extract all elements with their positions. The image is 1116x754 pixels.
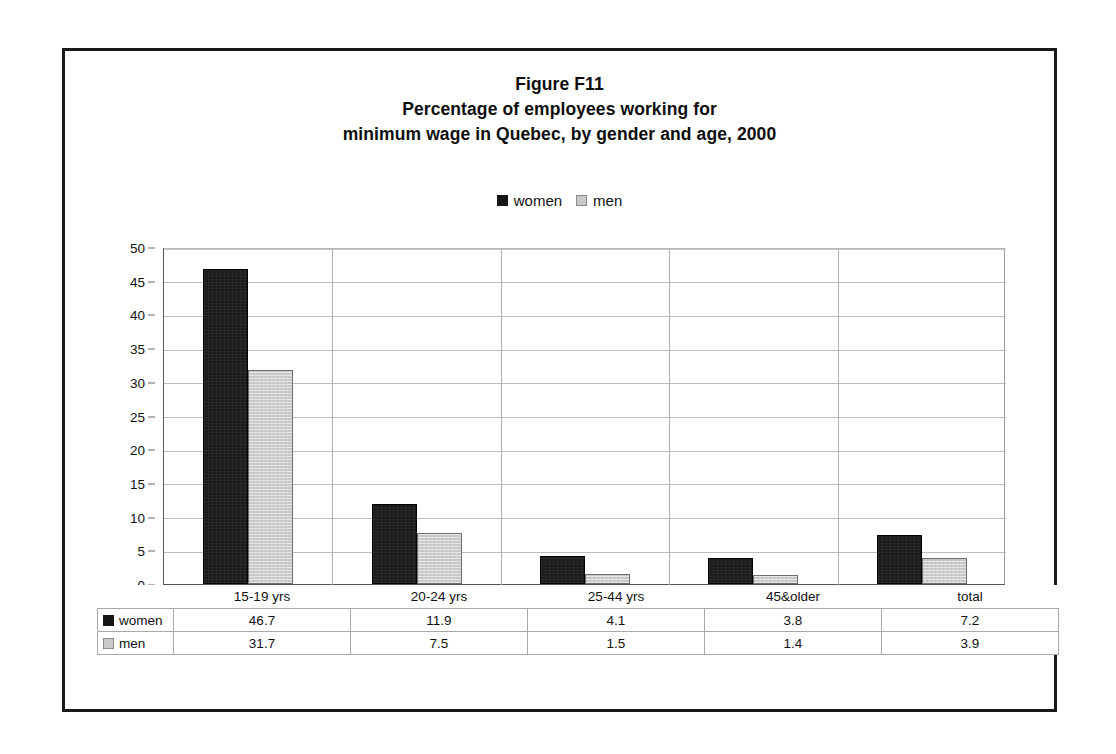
bar-women-20-24-yrs[interactable] <box>372 504 417 584</box>
legend-item-men[interactable]: men <box>576 192 622 209</box>
bar-women-total[interactable] <box>877 535 922 584</box>
y-axis-tick-label: 5 <box>137 544 145 559</box>
table-cell: 1.4 <box>705 632 882 655</box>
bar-men-25-44-yrs[interactable] <box>585 574 630 584</box>
gridline <box>164 316 1006 317</box>
y-axis-tick-label: 10 <box>130 510 145 525</box>
y-axis-tick-label: 45 <box>130 274 145 289</box>
bar-men-total[interactable] <box>922 558 967 584</box>
y-axis-tick-mark <box>148 483 155 484</box>
column-header: total <box>882 585 1059 609</box>
data-table: 15-19 yrs20-24 yrs25-44 yrs45&oldertotal… <box>97 585 1059 655</box>
table-cell: 46.7 <box>174 609 351 632</box>
column-header: 25-44 yrs <box>528 585 705 609</box>
table-header-row: 15-19 yrs20-24 yrs25-44 yrs45&oldertotal <box>98 585 1059 609</box>
y-axis-tick-mark <box>148 248 155 249</box>
y-axis-tick-label: 40 <box>130 308 145 323</box>
y-axis-tick-mark <box>148 416 155 417</box>
table-row-label: men <box>119 636 145 651</box>
title-line-2: Percentage of employees working for <box>62 97 1057 122</box>
y-axis-tick-label: 50 <box>130 241 145 256</box>
bar-women-25-44-yrs[interactable] <box>540 556 585 584</box>
table-row-key-women: women <box>98 609 174 632</box>
category-separator <box>332 249 333 586</box>
gridline <box>164 249 1006 250</box>
title-line-3: minimum wage in Quebec, by gender and ag… <box>62 122 1057 147</box>
table-cell: 7.2 <box>882 609 1059 632</box>
black-square-icon <box>103 615 114 626</box>
table-cell: 3.8 <box>705 609 882 632</box>
category-separator <box>669 249 670 586</box>
table-cell: 4.1 <box>528 609 705 632</box>
table-header-key-cell <box>98 585 174 609</box>
y-axis-tick-mark <box>148 517 155 518</box>
y-axis-tick-mark <box>148 382 155 383</box>
bar-women-15-19-yrs[interactable] <box>203 269 248 584</box>
bar-men-20-24-yrs[interactable] <box>417 533 462 584</box>
bar-women-45-older[interactable] <box>708 558 753 584</box>
y-axis-tick-mark <box>148 450 155 451</box>
category-separator <box>501 249 502 586</box>
table-row: women46.711.94.13.87.2 <box>98 609 1059 632</box>
table-cell: 7.5 <box>351 632 528 655</box>
bar-men-15-19-yrs[interactable] <box>248 370 293 584</box>
page-title: Figure F11 Percentage of employees worki… <box>62 72 1057 147</box>
y-axis-tick-label: 20 <box>130 443 145 458</box>
y-axis: 05101520253035404550 <box>108 248 155 585</box>
table-row-key-men: men <box>98 632 174 655</box>
y-axis-tick-mark <box>148 281 155 282</box>
y-axis-tick-label: 25 <box>130 409 145 424</box>
y-axis-tick-label: 30 <box>130 375 145 390</box>
y-axis-tick-mark <box>148 551 155 552</box>
column-header: 15-19 yrs <box>174 585 351 609</box>
table-row: men31.77.51.51.43.9 <box>98 632 1059 655</box>
y-axis-tick-mark <box>148 315 155 316</box>
table-cell: 11.9 <box>351 609 528 632</box>
plot-area <box>163 248 1005 585</box>
y-axis-tick-label: 35 <box>130 342 145 357</box>
table-cell: 31.7 <box>174 632 351 655</box>
figure-page: Figure F11 Percentage of employees worki… <box>0 0 1116 754</box>
gray-square-icon <box>576 195 587 206</box>
gray-square-icon <box>103 638 114 649</box>
chart-legend: women men <box>62 192 1057 209</box>
black-square-icon <box>497 195 508 206</box>
table-cell: 3.9 <box>882 632 1059 655</box>
bar-men-45-older[interactable] <box>753 575 798 584</box>
y-axis-tick-mark <box>148 349 155 350</box>
y-axis-tick-label: 15 <box>130 476 145 491</box>
category-separator <box>838 249 839 586</box>
legend-label-men: men <box>593 192 622 209</box>
legend-label-women: women <box>514 192 562 209</box>
gridline <box>164 350 1006 351</box>
column-header: 20-24 yrs <box>351 585 528 609</box>
column-header: 45&older <box>705 585 882 609</box>
table-row-label: women <box>119 613 163 628</box>
table-cell: 1.5 <box>528 632 705 655</box>
title-line-1: Figure F11 <box>62 72 1057 97</box>
gridline <box>164 282 1006 283</box>
plot-area-wrapper <box>163 248 1005 585</box>
legend-item-women[interactable]: women <box>497 192 562 209</box>
